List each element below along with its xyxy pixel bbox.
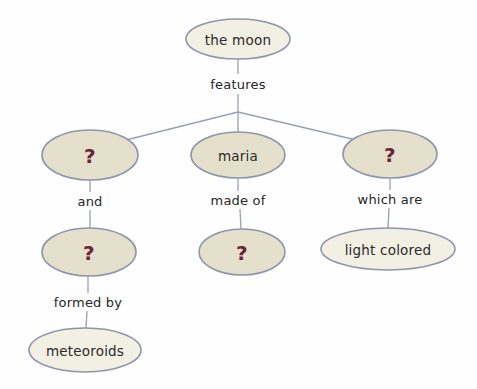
node-left-unknown[interactable]: ? <box>42 130 138 180</box>
node-meteoroids[interactable]: meteoroids <box>29 328 141 372</box>
link-label-and: and <box>77 194 102 209</box>
link-label-made-of: made of <box>211 193 266 208</box>
node-maria-label: maria <box>218 148 258 164</box>
concept-map-canvas: the moon features ? maria ? and made of … <box>0 0 477 389</box>
node-right-unknown[interactable]: ? <box>343 130 437 178</box>
node-the-moon[interactable]: the moon <box>186 19 290 59</box>
node-right-unknown-label: ? <box>384 143 396 167</box>
link-label-which-are: which are <box>358 192 423 207</box>
node-maria[interactable]: maria <box>191 132 285 178</box>
node-left-unknown-2-label: ? <box>83 241 95 265</box>
connector-formed-by-to-meteoroids <box>86 311 87 328</box>
node-maria-unknown-label: ? <box>236 241 248 265</box>
concept-map-svg: the moon features ? maria ? and made of … <box>0 0 477 389</box>
node-the-moon-label: the moon <box>205 32 271 48</box>
connector-made-of-to-maria-unknown <box>240 209 241 229</box>
node-left-unknown-2[interactable]: ? <box>42 228 136 276</box>
node-meteoroids-label: meteoroids <box>46 343 124 359</box>
node-light-colored-label: light colored <box>345 242 432 258</box>
node-light-colored[interactable]: light colored <box>321 228 455 270</box>
node-left-unknown-label: ? <box>84 144 96 168</box>
link-label-features: features <box>210 77 265 92</box>
node-maria-unknown[interactable]: ? <box>199 229 285 275</box>
link-label-formed-by: formed by <box>54 295 123 310</box>
connector-which-are-to-light-colored <box>388 208 389 228</box>
